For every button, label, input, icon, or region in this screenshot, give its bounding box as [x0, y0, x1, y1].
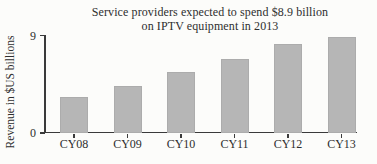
- bar-CY09: [114, 86, 142, 133]
- bar-CY08: [60, 97, 88, 133]
- chart-title-line-2: on IPTV equipment in 2013: [50, 19, 370, 33]
- y-axis-line: [44, 35, 46, 133]
- bar-CY13: [328, 37, 356, 133]
- x-tick-label-CY10: CY10: [157, 137, 205, 151]
- x-tick-label-CY11: CY11: [211, 137, 259, 151]
- x-tick-label-CY09: CY09: [104, 137, 152, 151]
- y-tick-9: [40, 35, 45, 37]
- x-tick-label-CY13: CY13: [318, 137, 366, 151]
- bar-CY10: [167, 72, 195, 133]
- y-tick-0: [40, 132, 45, 134]
- y-tick-label-9: 9: [22, 29, 36, 43]
- y-axis-label: Revenue in $US billions: [4, 28, 16, 156]
- bar-CY12: [274, 44, 302, 133]
- chart-title-line-1: Service providers expected to spend $8.9…: [50, 5, 370, 19]
- bar-CY11: [221, 59, 249, 133]
- x-axis-line: [41, 132, 357, 134]
- x-tick-label-CY12: CY12: [264, 137, 312, 151]
- y-tick-label-0: 0: [22, 126, 36, 140]
- iptv-spending-bar-chart: Service providers expected to spend $8.9…: [0, 0, 377, 164]
- x-tick-label-CY08: CY08: [50, 137, 98, 151]
- chart-title: Service providers expected to spend $8.9…: [50, 5, 370, 33]
